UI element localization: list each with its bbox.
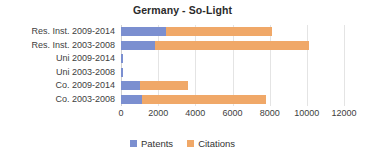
bar-segment-patents[interactable] <box>121 27 166 36</box>
bar-segment-citations[interactable] <box>142 95 266 104</box>
y-axis-category-labels: Res. Inst. 2009-2014Res. Inst. 2003-2008… <box>0 25 118 106</box>
bar-row[interactable] <box>121 79 344 93</box>
bar-segment-patents[interactable] <box>121 95 142 104</box>
y-axis-category-label: Res. Inst. 2003-2008 <box>31 39 115 53</box>
y-axis-category-label: Co. 2003-2008 <box>55 93 115 107</box>
chart-legend: PatentsCitations <box>0 138 365 149</box>
legend-label: Patents <box>141 138 173 149</box>
bar-segment-patents[interactable] <box>121 68 123 77</box>
y-axis-category-label: Co. 2009-2014 <box>55 79 115 93</box>
bar-row[interactable] <box>121 39 344 53</box>
legend-item[interactable]: Citations <box>187 138 235 149</box>
x-axis-tick-label: 10000 <box>294 108 319 118</box>
x-axis-tick-label: 8000 <box>260 108 280 118</box>
x-axis-tick-label: 0 <box>118 108 123 118</box>
x-axis-tick-labels: 020004000600080001000012000 <box>121 108 344 122</box>
bar-row[interactable] <box>121 25 344 39</box>
legend-item[interactable]: Patents <box>130 138 173 149</box>
bar-segment-citations[interactable] <box>140 81 188 90</box>
x-axis-tick-label: 4000 <box>185 108 205 118</box>
x-axis-tick-label: 6000 <box>222 108 242 118</box>
legend-swatch-icon <box>187 140 194 147</box>
x-axis-tick-label: 2000 <box>148 108 168 118</box>
bar-segment-patents[interactable] <box>121 41 155 50</box>
y-axis-category-label: Res. Inst. 2009-2014 <box>31 25 115 39</box>
x-axis-tick-label: 12000 <box>331 108 356 118</box>
plot-area <box>121 25 344 106</box>
bar-segment-citations[interactable] <box>155 41 308 50</box>
bar-segment-patents[interactable] <box>121 81 140 90</box>
bar-row[interactable] <box>121 93 344 107</box>
legend-swatch-icon <box>130 140 137 147</box>
bar-row[interactable] <box>121 66 344 80</box>
chart-container: Germany - So-Light Res. Inst. 2009-2014R… <box>0 0 365 159</box>
gridline <box>344 25 345 106</box>
bar-segment-patents[interactable] <box>121 54 123 63</box>
y-axis-category-label: Uni 2003-2008 <box>56 66 115 80</box>
y-axis-category-label: Uni 2009-2014 <box>56 52 115 66</box>
bar-row[interactable] <box>121 52 344 66</box>
bar-segment-citations[interactable] <box>166 27 272 36</box>
legend-label: Citations <box>198 138 235 149</box>
chart-title: Germany - So-Light <box>0 4 365 16</box>
